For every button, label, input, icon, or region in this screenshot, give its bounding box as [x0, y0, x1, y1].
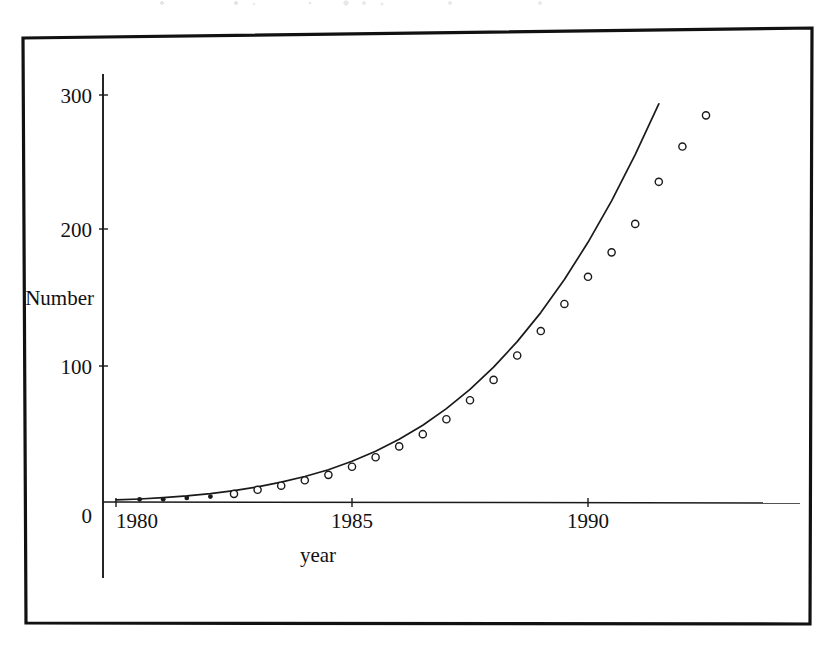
data-point-marker: [561, 300, 568, 307]
data-point-marker: [466, 397, 473, 404]
data-point-marker: [702, 112, 709, 119]
data-point-marker: [679, 143, 686, 150]
x-tick-label-1990: 1990: [567, 509, 609, 533]
data-point-marker: [372, 454, 379, 461]
data-point-marker: [184, 496, 189, 501]
y-tick-label-200: 200: [61, 218, 93, 242]
data-point-marker: [396, 443, 403, 450]
figure-frame: 300 200 100 0 1980 1985 1990 Number year: [0, 0, 836, 646]
data-point-marker: [254, 486, 261, 493]
data-point-marker: [230, 490, 237, 497]
data-point-marker: [208, 494, 213, 499]
data-point-marker: [514, 352, 521, 359]
y-axis-title: Number: [25, 286, 94, 310]
y-tick-label-0: 0: [82, 504, 93, 528]
data-point-marker: [490, 376, 497, 383]
x-tick-label-1985: 1985: [331, 509, 373, 533]
data-point-marker: [137, 497, 142, 502]
data-point-marker: [584, 273, 591, 280]
chart-canvas: 300 200 100 0 1980 1985 1990 Number year: [0, 0, 836, 646]
data-point-marker: [278, 482, 285, 489]
fitted-curve-path: [116, 104, 659, 500]
fitted-curve: [116, 104, 659, 500]
x-axis-title: year: [300, 543, 336, 567]
x-tick-label-1980: 1980: [116, 509, 158, 533]
page-border: [23, 28, 812, 624]
data-point-marker: [161, 497, 166, 502]
data-point-marker: [608, 249, 615, 256]
x-axis-line: [103, 502, 800, 503]
data-point-marker: [632, 220, 639, 227]
data-point-markers: [137, 112, 709, 502]
data-point-marker: [419, 431, 426, 438]
data-point-marker: [537, 327, 544, 334]
data-point-marker: [325, 471, 332, 478]
y-tick-label-300: 300: [61, 84, 93, 108]
y-tick-label-100: 100: [61, 355, 93, 379]
data-point-marker: [348, 463, 355, 470]
data-point-marker: [301, 477, 308, 484]
data-point-marker: [443, 416, 450, 423]
data-point-marker: [655, 178, 662, 185]
